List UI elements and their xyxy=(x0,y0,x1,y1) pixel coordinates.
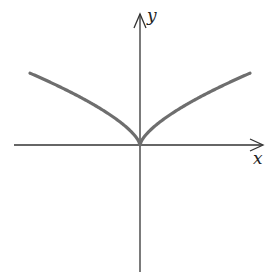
graph-canvas xyxy=(0,0,276,272)
y-axis-label: y xyxy=(147,7,157,24)
x-axis-label: x xyxy=(253,150,263,167)
